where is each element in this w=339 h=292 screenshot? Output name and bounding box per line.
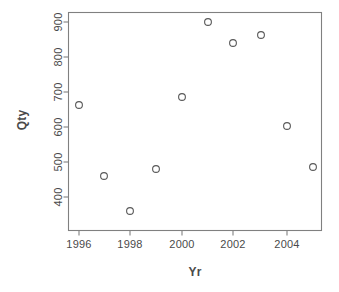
- plot-canvas: 900 800 700 600 500 400 1996 1998 2000 2…: [0, 0, 339, 292]
- data-point: [101, 173, 108, 180]
- y-tick-label: 500: [52, 153, 64, 172]
- x-tick-label: 2004: [274, 238, 299, 250]
- data-point: [127, 208, 134, 215]
- y-tick-label: 700: [52, 83, 64, 102]
- data-point: [284, 123, 291, 130]
- y-tick-label: 800: [52, 48, 64, 67]
- scatter-plot-figure: 900 800 700 600 500 400 1996 1998 2000 2…: [0, 0, 339, 292]
- data-point: [230, 40, 237, 47]
- x-tick-label: 1996: [66, 238, 91, 250]
- x-axis-ticks: [79, 231, 287, 236]
- data-point: [153, 166, 160, 173]
- data-point: [179, 94, 186, 101]
- x-tick-label: 2000: [169, 238, 194, 250]
- y-axis-ticks: [64, 22, 69, 197]
- x-tick-label: 2002: [220, 238, 245, 250]
- data-point: [258, 32, 265, 39]
- y-tick-label: 600: [52, 118, 64, 137]
- data-points-group: [76, 19, 317, 215]
- data-point: [205, 19, 212, 26]
- x-tick-label: 1998: [117, 238, 142, 250]
- data-point: [310, 164, 317, 171]
- y-tick-label: 900: [52, 13, 64, 32]
- y-axis-tick-labels: 900 800 700 600 500 400: [52, 13, 64, 207]
- y-tick-label: 400: [52, 188, 64, 207]
- x-axis-title: Yr: [188, 265, 201, 279]
- data-point: [76, 102, 83, 109]
- y-axis-title: Qty: [15, 110, 29, 131]
- x-axis-tick-labels: 1996 1998 2000 2002 2004: [66, 238, 299, 250]
- plot-frame-box: [69, 13, 322, 231]
